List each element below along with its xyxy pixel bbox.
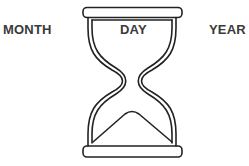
year-label: YEAR [209, 22, 246, 37]
month-label: MONTH [3, 22, 52, 37]
day-label: DAY [120, 22, 147, 37]
